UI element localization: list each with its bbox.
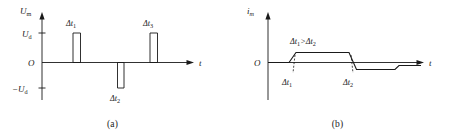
interval-1-label: Δt1 — [281, 78, 292, 88]
y-axis-label-b: im — [247, 6, 255, 17]
x-axis-label-a: t — [199, 58, 202, 68]
pulse-2-waveform — [118, 63, 125, 89]
pulse-3-label: Δt3 — [142, 19, 153, 29]
pulse-3-waveform — [150, 33, 158, 63]
inequality-annotation: Δt1>Δt2 — [289, 37, 316, 47]
pulse-1-label: Δt1 — [65, 19, 76, 29]
y-axis-label-a: Um — [20, 6, 32, 17]
current-waveform — [268, 53, 421, 70]
panel-b-caption: (b) — [225, 119, 450, 129]
panel-a: Um t O Ud −Ud Δt1 Δt2 Δt3 (a) — [0, 0, 225, 133]
pulse-2-label: Δt2 — [109, 94, 120, 104]
origin-label-a: O — [28, 58, 35, 68]
tick-label-positive-a: Ud — [22, 29, 33, 40]
figure-container: Um t O Ud −Ud Δt1 Δt2 Δt3 (a) — [0, 0, 450, 133]
origin-label-b: O — [254, 58, 261, 68]
x-axis-label-b: t — [429, 58, 432, 68]
panel-a-caption: (a) — [0, 119, 225, 129]
panel-a-plot: Um t O Ud −Ud Δt1 Δt2 Δt3 — [0, 0, 225, 133]
panel-b-plot: im t O Δt1>Δt2 Δt1 Δt2 — [225, 0, 450, 133]
interval-2-label: Δt2 — [342, 78, 353, 88]
pulse-1-waveform — [73, 33, 81, 63]
panel-b: im t O Δt1>Δt2 Δt1 Δt2 (b) — [225, 0, 450, 133]
y-axis-b — [265, 12, 270, 100]
x-axis-b — [268, 60, 424, 65]
interval-1-marker — [293, 55, 295, 73]
tick-label-negative-a: −Ud — [12, 84, 29, 95]
y-axis-a — [39, 12, 44, 100]
